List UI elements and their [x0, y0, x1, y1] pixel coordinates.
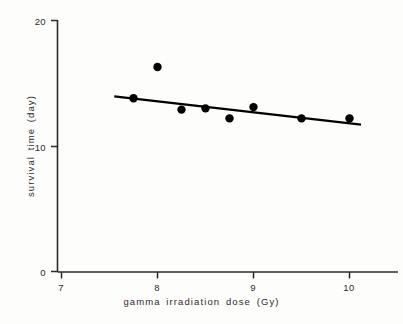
axis-lines [58, 20, 399, 272]
x-tick-label-10: 10 [343, 282, 354, 293]
data-point [153, 63, 161, 71]
data-layer [114, 63, 361, 125]
chart-figure: 20 10 0 7 8 9 10 gamma irradiation dose … [0, 0, 403, 324]
y-tick-label-20: 20 [20, 16, 46, 27]
x-tick-label-9: 9 [250, 282, 256, 293]
y-tick-label-0: 0 [20, 267, 46, 278]
scatter-plot-canvas [0, 0, 403, 324]
data-point [225, 114, 233, 122]
data-point [177, 105, 185, 113]
y-axis-title: survival time (day) [25, 56, 36, 236]
x-axis-title: gamma irradiation dose (Gy) [0, 296, 403, 307]
x-axis-ticks [62, 272, 350, 279]
regression-line [114, 96, 361, 124]
y-axis-ticks [51, 21, 58, 272]
data-point [345, 114, 353, 122]
x-tick-label-8: 8 [154, 282, 160, 293]
x-tick-label-7: 7 [58, 282, 64, 293]
data-point [249, 103, 257, 111]
